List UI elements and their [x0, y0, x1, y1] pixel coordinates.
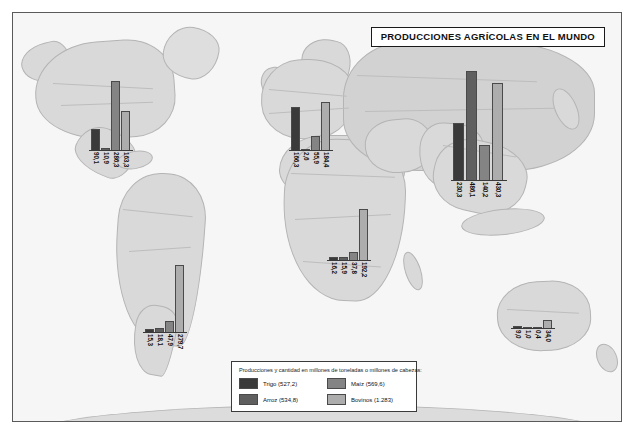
bar-bovinos — [359, 209, 368, 261]
legend-item-maiz: Maíz (569,6) — [327, 378, 409, 389]
bar-label-maiz: 140,2 — [479, 181, 490, 213]
legend-item-bovinos: Bovinos (1.283) — [327, 394, 409, 405]
bar-label-bovinos: 34,0 — [543, 329, 552, 353]
bar-label-maiz: 0,4 — [533, 329, 542, 353]
bar-label-trigo: 9,0 — [513, 329, 522, 353]
bar-bovinos — [321, 102, 330, 151]
labels-south-america: 15,3 18,1 47,9 279,7 — [145, 333, 184, 365]
bars-north-america — [91, 81, 130, 151]
bar-label-arroz: 18,1 — [155, 333, 164, 365]
bar-label-maiz: 37,8 — [349, 261, 358, 293]
bars-africa — [329, 209, 368, 261]
legend-item-trigo: Trigo (527,2) — [239, 378, 327, 389]
labels-europe: 166,3 2,6 55,9 184,4 — [291, 151, 330, 183]
bar-chart-south-america: 15,3 18,1 47,9 279,7 — [145, 265, 185, 333]
bar-maiz — [479, 145, 490, 181]
labels-oceania: 9,0 1,0 0,4 34,0 — [513, 329, 552, 353]
legend-swatch-trigo — [239, 378, 258, 389]
bar-label-maiz: 55,9 — [311, 151, 320, 183]
bar-label-arroz: 10,9 — [101, 151, 110, 183]
bar-label-arroz: 15,9 — [339, 261, 348, 293]
bar-arroz — [466, 71, 477, 181]
legend-swatch-bovinos — [327, 394, 346, 405]
bar-bovinos — [175, 265, 184, 333]
bar-label-trigo: 15,3 — [145, 333, 154, 365]
labels-asia: 230,3 486,1 140,2 430,3 — [453, 181, 503, 213]
bar-chart-north-america: 90,1 10,9 286,3 163,3 — [91, 81, 131, 151]
bar-label-arroz: 486,1 — [466, 181, 477, 213]
bar-bovinos — [492, 83, 503, 181]
legend-label-trigo: Trigo (527,2) — [263, 381, 297, 387]
legend-title: Producciones y cantidad en millones de t… — [239, 367, 409, 373]
bars-south-america — [145, 265, 184, 333]
bar-trigo — [291, 107, 300, 151]
bar-label-bovinos: 430,3 — [492, 181, 503, 213]
bar-label-bovinos: 279,7 — [175, 333, 184, 365]
bar-maiz — [111, 81, 120, 151]
bar-label-trigo: 90,1 — [91, 151, 100, 183]
bar-chart-africa: 16,2 15,9 37,8 192,2 — [329, 209, 369, 261]
bar-label-bovinos: 184,4 — [321, 151, 330, 183]
bar-trigo — [91, 129, 100, 151]
bars-europe — [291, 102, 330, 151]
bar-label-arroz: 1,0 — [523, 329, 532, 353]
screenshot-root: PRODUCCIONES AGRÍCOLAS EN EL MUNDO 90,1 … — [0, 0, 636, 437]
legend-swatch-maiz — [327, 378, 346, 389]
labels-africa: 16,2 15,9 37,8 192,2 — [329, 261, 368, 293]
legend-label-bovinos: Bovinos (1.283) — [351, 397, 393, 403]
legend-label-maiz: Maíz (569,6) — [351, 381, 385, 387]
bar-label-maiz: 286,3 — [111, 151, 120, 183]
legend-label-arroz: Arroz (534,8) — [263, 397, 298, 403]
bar-label-bovinos: 192,2 — [359, 261, 368, 293]
bar-label-bovinos: 163,3 — [121, 151, 130, 183]
bar-label-trigo: 166,3 — [291, 151, 300, 183]
world-map-frame: PRODUCCIONES AGRÍCOLAS EN EL MUNDO 90,1 … — [12, 12, 622, 422]
bar-label-maiz: 47,9 — [165, 333, 174, 365]
labels-north-america: 90,1 10,9 286,3 163,3 — [91, 151, 130, 183]
bar-bovinos — [121, 111, 130, 151]
page-title: PRODUCCIONES AGRÍCOLAS EN EL MUNDO — [381, 32, 595, 42]
legend-swatch-arroz — [239, 394, 258, 405]
bar-chart-europe: 166,3 2,6 55,9 184,4 — [291, 81, 331, 151]
bars-asia — [453, 71, 503, 181]
bar-label-trigo: 230,3 — [453, 181, 464, 213]
map-title-box: PRODUCCIONES AGRÍCOLAS EN EL MUNDO — [371, 27, 605, 47]
legend-item-arroz: Arroz (534,8) — [239, 394, 327, 405]
bar-label-trigo: 16,2 — [329, 261, 338, 293]
bar-chart-oceania: 9,0 1,0 0,4 34,0 — [513, 313, 553, 329]
bar-label-arroz: 2,6 — [301, 151, 310, 183]
legend-box: Producciones y cantidad en millones de t… — [231, 361, 417, 412]
bar-chart-asia: 230,3 486,1 140,2 430,3 — [453, 71, 499, 181]
bar-trigo — [453, 123, 464, 181]
legend-items: Trigo (527,2) Maíz (569,6) Arroz (534,8)… — [239, 378, 409, 405]
